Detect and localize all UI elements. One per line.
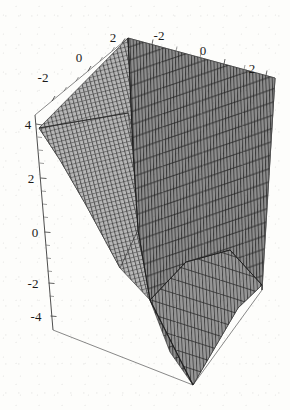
surface-plot-figure: 4 2 0 -2 -4 -2 0 2 -2 0 2 (0, 0, 290, 410)
z-tick-label-2: 2 (28, 171, 35, 186)
y-tick-label-2: 2 (249, 61, 256, 76)
y-tick-label-neg2: -2 (154, 28, 165, 43)
y-tick-label-0: 0 (200, 43, 207, 58)
box-left-vertical-edge (35, 115, 53, 330)
surface-left-shelf (39, 113, 138, 268)
plot-canvas: 4 2 0 -2 -4 -2 0 2 -2 0 2 (0, 0, 290, 410)
x-tick-label-0: 0 (76, 50, 83, 65)
z-tick-label-0: 0 (32, 225, 39, 240)
z-axis-ticks (36, 124, 57, 317)
z-tick-label-neg2: -2 (28, 276, 39, 291)
z-tick-label-4: 4 (25, 117, 32, 132)
x-tick-label-neg2: -2 (38, 70, 49, 85)
surface-group (39, 38, 275, 385)
z-tick-label-neg4: -4 (31, 309, 42, 324)
x-tick-label-2: 2 (110, 30, 117, 45)
